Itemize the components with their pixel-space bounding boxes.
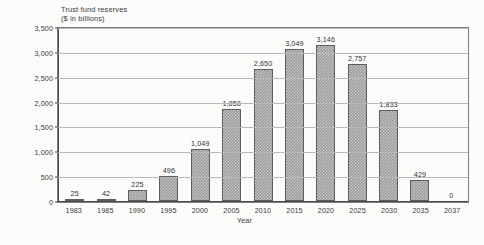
gridline <box>58 177 468 178</box>
bar-value-label: 1,833 <box>379 100 398 109</box>
y-axis-tick-label: 0 <box>49 198 53 207</box>
x-axis-tick-label: 2010 <box>247 206 279 215</box>
x-axis-labels: 1983198519901995200020052010201520202025… <box>58 206 468 215</box>
bar: 429 <box>410 180 429 201</box>
x-axis-tick-label: 2020 <box>310 206 342 215</box>
bar-slot: 0 <box>436 29 467 201</box>
y-axis-tick <box>55 52 58 53</box>
y-axis-tick <box>55 77 58 78</box>
bar: 25 <box>65 199 84 201</box>
gridline <box>58 78 468 79</box>
bar-value-label: 3,049 <box>285 39 304 48</box>
bar-slot: 3,049 <box>279 29 310 201</box>
gridline <box>58 53 468 54</box>
gridline <box>58 152 468 153</box>
bar-slot: 2,757 <box>342 29 373 201</box>
y-axis-tick <box>55 127 58 128</box>
x-axis-tick-label: 2037 <box>436 206 468 215</box>
x-axis-tick-label: 2000 <box>184 206 216 215</box>
bar-slot: 1,858 <box>216 29 247 201</box>
bar-chart: Trust fund reserves ($ in billions) 2542… <box>0 0 484 245</box>
chart-title-line1: Trust fund reserves <box>61 5 127 14</box>
x-axis-line <box>58 201 468 202</box>
bar: 1,858 <box>222 109 241 201</box>
bar-value-label: 2,650 <box>254 59 273 68</box>
gridline <box>58 28 468 29</box>
bar: 496 <box>159 176 178 201</box>
bar: 2,757 <box>348 64 367 201</box>
bar: 3,049 <box>285 49 304 201</box>
bar-slot: 1,049 <box>185 29 216 201</box>
x-axis-tick-label: 1983 <box>58 206 90 215</box>
bar: 225 <box>128 190 147 201</box>
bar-series: 25422254961,0491,8582,6503,0493,1462,757… <box>59 29 467 201</box>
y-axis-tick-label: 1,000 <box>35 148 54 157</box>
bar-value-label: 496 <box>163 166 175 175</box>
bar-value-label: 2,757 <box>348 54 367 63</box>
bar-slot: 225 <box>122 29 153 201</box>
y-axis-tick <box>55 177 58 178</box>
bar-slot: 496 <box>153 29 184 201</box>
plot-area: 25422254961,0491,8582,6503,0493,1462,757… <box>57 27 469 203</box>
chart-title-line2: ($ in billions) <box>61 14 127 23</box>
x-axis-tick-label: 2015 <box>279 206 311 215</box>
bar-value-label: 42 <box>102 189 110 198</box>
x-axis-tick-label: 2025 <box>342 206 374 215</box>
x-axis-title: Year <box>237 216 252 225</box>
bar-slot: 42 <box>90 29 121 201</box>
y-axis-tick-label: 3,000 <box>35 48 54 57</box>
bar-value-label: 3,146 <box>317 35 336 44</box>
y-axis-tick-label: 3,500 <box>35 24 54 33</box>
y-axis-tick-label: 2,500 <box>35 73 54 82</box>
x-axis-tick-label: 1995 <box>153 206 185 215</box>
gridline <box>58 103 468 104</box>
bar-value-label: 0 <box>449 191 453 200</box>
x-axis-tick-label: 2030 <box>373 206 405 215</box>
bar: 1,049 <box>191 149 210 201</box>
bar-slot: 3,146 <box>310 29 341 201</box>
bar-value-label: 225 <box>131 180 143 189</box>
gridline <box>58 127 468 128</box>
bar-slot: 25 <box>59 29 90 201</box>
bar-slot: 429 <box>404 29 435 201</box>
x-axis-tick-label: 1990 <box>121 206 153 215</box>
x-axis-tick-label: 2035 <box>405 206 437 215</box>
y-axis-tick <box>55 102 58 103</box>
bar-slot: 2,650 <box>247 29 278 201</box>
chart-title: Trust fund reserves ($ in billions) <box>61 5 127 24</box>
bar: 42 <box>97 199 116 201</box>
y-axis-tick-label: 500 <box>41 173 53 182</box>
y-axis-tick <box>55 202 58 203</box>
y-axis-tick <box>55 28 58 29</box>
x-axis-tick-label: 2005 <box>216 206 248 215</box>
bar-value-label: 25 <box>71 189 79 198</box>
y-axis-tick <box>55 152 58 153</box>
y-axis-tick-label: 2,000 <box>35 98 54 107</box>
bar-slot: 1,833 <box>373 29 404 201</box>
x-axis-tick-label: 1985 <box>90 206 122 215</box>
bar: 2,650 <box>254 69 273 201</box>
y-axis-tick-label: 1,500 <box>35 123 54 132</box>
bar-value-label: 1,049 <box>191 139 210 148</box>
bar: 1,833 <box>379 110 398 201</box>
